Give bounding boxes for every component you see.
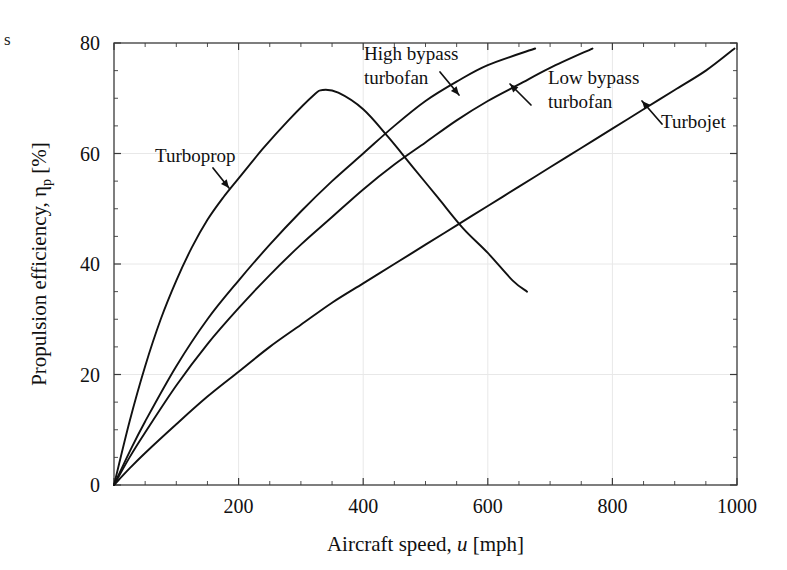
- annotation-label-turboprop: Turboprop: [155, 145, 236, 166]
- x-tick-label: 400: [348, 495, 378, 517]
- series-curve-low-bypass-turbofan: [114, 49, 592, 485]
- figure-container: s 2004006008001000020406080 TurbopropHig…: [0, 0, 787, 570]
- series-annotations: TurbopropHigh bypassturbofanLow bypasstu…: [155, 43, 726, 188]
- x-tick-label: 600: [473, 495, 503, 517]
- y-tick-label: 20: [80, 364, 100, 386]
- y-tick-label: 0: [90, 474, 100, 496]
- axis-titles: Aircraft speed, u [mph]Propulsion effici…: [27, 142, 524, 556]
- annotation-label-high-bypass-turbofan: High bypassturbofan: [364, 43, 458, 88]
- x-tick-label: 200: [224, 495, 254, 517]
- series-curve-high-bypass-turbofan: [114, 49, 535, 485]
- data-series: [114, 49, 735, 485]
- propulsion-efficiency-chart: 2004006008001000020406080 TurbopropHigh …: [0, 0, 787, 570]
- y-tick-label: 80: [80, 32, 100, 54]
- x-tick-label: 800: [597, 495, 627, 517]
- y-tick-label: 60: [80, 143, 100, 165]
- annotation-label-turbojet: Turbojet: [661, 111, 726, 132]
- series-curve-turbojet: [114, 49, 735, 485]
- y-axis-title: Propulsion efficiency, ηp [%]: [27, 142, 54, 386]
- x-axis-title: Aircraft speed, u [mph]: [327, 532, 524, 556]
- x-tick-label: 1000: [717, 495, 757, 517]
- y-tick-label: 40: [80, 253, 100, 275]
- annotation-label-low-bypass-turbofan: Low bypassturbofan: [548, 67, 639, 112]
- tick-labels: 2004006008001000020406080: [80, 32, 757, 517]
